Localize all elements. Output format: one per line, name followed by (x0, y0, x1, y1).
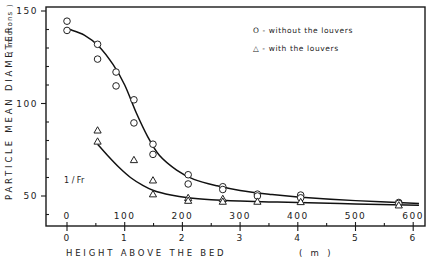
chart: 50100150 0123456 0100200300400500600 O -… (0, 0, 432, 261)
legend: O - without the louvers △ - with the lou… (253, 26, 353, 53)
x-tick-label: 0 (63, 233, 70, 243)
circle-marker (131, 120, 138, 127)
triangle-marker (94, 138, 101, 144)
circle-marker (94, 56, 101, 63)
circle-marker (219, 186, 226, 193)
circle-marker (113, 69, 120, 76)
x-tick-label: 4 (294, 233, 301, 243)
fit-curves (70, 30, 419, 206)
x-tick-label: 5 (352, 233, 359, 243)
x-axis-ticks: 0123456 (63, 222, 416, 243)
secondary-x-tick-label: 500 (345, 211, 367, 221)
circle-marker (185, 171, 192, 178)
x-axis-label: HEIGHT ABOVE THE BED (66, 248, 226, 258)
secondary-axis-annotation: 1 / Fr (64, 176, 85, 185)
secondary-x-tick-label: 600 (402, 211, 424, 221)
secondary-x-tick-label: 300 (229, 211, 251, 221)
x-tick-label: 2 (179, 233, 186, 243)
triangle-marker (94, 127, 101, 133)
secondary-x-tick-labels: 0100200300400500600 (63, 211, 424, 221)
y-tick-label: 50 (24, 191, 38, 201)
circle-marker (64, 18, 71, 25)
y-axis-unit: ( microns ) (6, 3, 14, 54)
secondary-x-tick-label: 0 (63, 211, 70, 221)
y-axis-ticks: 50100150 (16, 6, 49, 215)
plot-border (46, 7, 425, 226)
circle-marker (64, 27, 71, 34)
circle-marker (131, 97, 138, 104)
fit-curve-without-louvers (70, 30, 419, 204)
legend-label-without-louvers: O - without the louvers (253, 26, 353, 35)
triangle-marker (130, 156, 137, 162)
x-tick-label: 6 (410, 233, 417, 243)
triangle-marker (149, 177, 156, 183)
circle-marker (150, 141, 157, 148)
secondary-x-tick-label: 100 (114, 211, 136, 221)
circle-marker (113, 83, 120, 90)
circle-marker (185, 181, 192, 188)
data-points (64, 18, 403, 208)
legend-item-with-louvers: △ - with the louvers (253, 44, 339, 53)
y-axis-label-group: PARTICLE MEAN DIAMETER ( microns ) (4, 3, 14, 200)
x-tick-label: 1 (121, 233, 128, 243)
circle-marker (150, 151, 157, 158)
plot-frame (46, 7, 425, 226)
secondary-x-tick-label: 400 (287, 211, 309, 221)
secondary-x-tick-label: 200 (172, 211, 194, 221)
x-tick-label: 3 (236, 233, 243, 243)
legend-label-with-louvers: △ - with the louvers (253, 44, 339, 53)
y-tick-label: 150 (16, 6, 38, 16)
y-tick-label: 100 (16, 99, 38, 109)
legend-item-without-louvers: O - without the louvers (253, 26, 353, 35)
circle-marker (94, 41, 101, 48)
x-axis-unit: ( m ) (299, 248, 333, 258)
